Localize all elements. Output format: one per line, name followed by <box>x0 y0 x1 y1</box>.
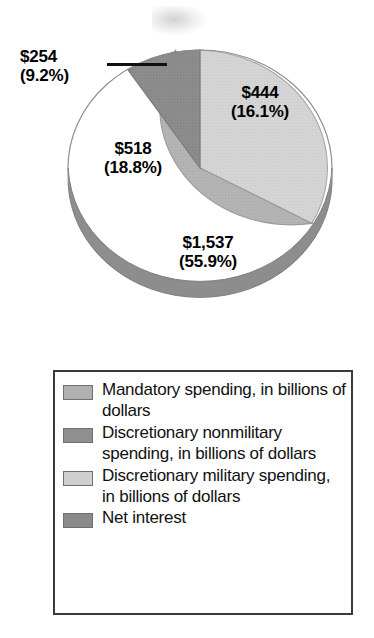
pie-label-military-percent: (16.1%) <box>206 102 314 121</box>
legend-item-nonmilitary: Discretionary nonmilitary spending, in b… <box>63 423 347 465</box>
pie-label-mandatory: $1,537 (55.9%) <box>146 233 270 271</box>
pie-chart: $444 (16.1%) $1,537 (55.9%) $518 (18.8%)… <box>0 0 374 352</box>
legend-item-military: Discretionary military spending, in bill… <box>63 466 347 508</box>
pie-label-nonmilitary-percent: (18.8%) <box>79 158 187 177</box>
pie-label-military: $444 (16.1%) <box>206 83 314 121</box>
legend-item-net-interest: Net interest <box>63 508 347 529</box>
pie-label-military-amount: $444 <box>206 83 314 102</box>
chart-legend: Mandatory spending, in billions of dolla… <box>53 370 353 615</box>
pie-label-mandatory-amount: $1,537 <box>146 233 270 252</box>
pie-label-nonmilitary: $518 (18.8%) <box>79 139 187 177</box>
pie-label-leader-line <box>107 63 167 66</box>
legend-list: Mandatory spending, in billions of dolla… <box>63 380 347 530</box>
legend-swatch-net-interest <box>63 513 93 528</box>
pie-label-mandatory-percent: (55.9%) <box>146 252 270 271</box>
legend-label-military: Discretionary military spending, in bill… <box>102 466 347 508</box>
legend-swatch-mandatory <box>63 385 93 400</box>
legend-label-net-interest: Net interest <box>102 508 347 529</box>
pie-label-net-interest-percent: (9.2%) <box>20 66 112 85</box>
legend-item-mandatory: Mandatory spending, in billions of dolla… <box>63 380 347 422</box>
legend-swatch-nonmilitary <box>63 428 93 443</box>
legend-swatch-military <box>63 471 93 486</box>
legend-label-nonmilitary: Discretionary nonmilitary spending, in b… <box>102 423 347 465</box>
pie-label-net-interest-amount: $254 <box>20 47 112 66</box>
legend-label-mandatory: Mandatory spending, in billions of dolla… <box>102 380 347 422</box>
pie-label-nonmilitary-amount: $518 <box>79 139 187 158</box>
pie-label-net-interest: $254 (9.2%) <box>20 47 112 85</box>
